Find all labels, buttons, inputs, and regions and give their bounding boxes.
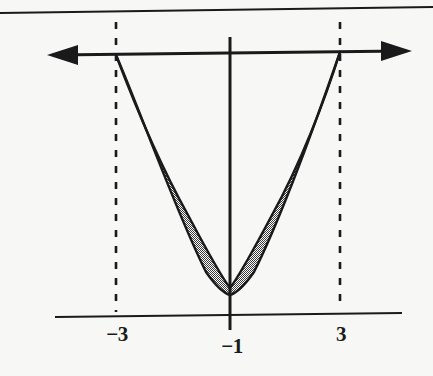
tick-label-neg3: −3 [106, 322, 127, 347]
math-figure-canvas [0, 0, 433, 376]
tick-label-pos3: 3 [336, 322, 346, 347]
figure-container: −3 −1 3 [0, 0, 433, 376]
tick-label-neg1: −1 [221, 334, 242, 359]
